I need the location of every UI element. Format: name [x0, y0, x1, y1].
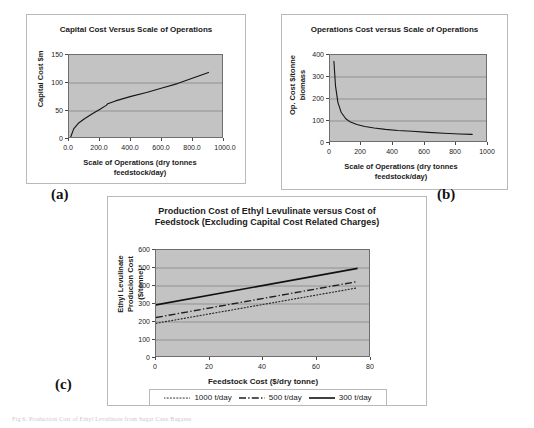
legend-label: 1000 t/day — [194, 393, 231, 402]
y-tick-label: 150 — [47, 51, 63, 58]
chart-title-operations-cost: Operations Cost versus Scale of Operatio… — [282, 25, 507, 35]
plot-area-operations-cost — [329, 54, 487, 142]
x-tick-label: 800 — [443, 148, 467, 155]
series-line-capital-cost — [71, 72, 209, 137]
x-tick-mark — [316, 357, 317, 360]
x-tick-label: 1000 — [475, 148, 499, 155]
x-tick-label: 0.0 — [53, 144, 83, 151]
y-tick-label: 400 — [132, 282, 150, 289]
legend-label: 300 t/day — [339, 393, 372, 402]
x-tick-mark — [392, 142, 393, 145]
x-tick-mark — [209, 357, 210, 360]
plot-area-production-cost — [155, 249, 370, 357]
x-tick-mark — [262, 357, 263, 360]
x-tick-label: 1000.0 — [208, 144, 242, 151]
legend-swatch-dashdot — [239, 395, 265, 401]
x-tick-mark — [130, 138, 131, 141]
y-tick-label: 300 — [308, 73, 324, 80]
x-tick-mark — [99, 138, 100, 141]
y-tick-label: 100 — [47, 79, 63, 86]
series-line-1000-tday — [156, 288, 358, 324]
y-tick-label: 600 — [132, 246, 150, 253]
panel-capital-cost: Capital Cost Versus Scale of Operations … — [26, 14, 246, 184]
figure-label-b: (b) — [437, 186, 455, 203]
x-tick-mark — [487, 142, 488, 145]
legend-item-500-tday[interactable]: 500 t/day — [239, 393, 302, 402]
x-tick-label: 80 — [358, 363, 382, 370]
chart-title-production-cost: Production Cost of Ethyl Levulinate vers… — [108, 206, 426, 229]
figure-label-a: (a) — [51, 186, 69, 203]
y-tick-label: 100 — [308, 117, 324, 124]
y-tick-label: 50 — [47, 107, 63, 114]
y-tick-label: 400 — [308, 51, 324, 58]
x-tick-label: 800.0 — [177, 144, 207, 151]
x-tick-label: 0 — [317, 148, 341, 155]
x-tick-label: 0 — [143, 363, 167, 370]
y-tick-label: 300 — [132, 300, 150, 307]
series-line-operations-cost — [334, 61, 472, 134]
x-tick-mark — [155, 357, 156, 360]
panel-operations-cost: Operations Cost versus Scale of Operatio… — [281, 14, 508, 190]
legend-production-cost: 1000 t/day 500 t/day 300 t/day — [149, 389, 387, 406]
x-tick-label: 400.0 — [115, 144, 145, 151]
x-tick-label: 600 — [412, 148, 436, 155]
x-tick-label: 40 — [250, 363, 274, 370]
x-tick-mark — [455, 142, 456, 145]
x-tick-label: 200.0 — [84, 144, 114, 151]
y-tick-label: 0 — [47, 135, 63, 142]
x-tick-mark — [424, 142, 425, 145]
legend-label: 500 t/day — [269, 393, 302, 402]
y-tick-label: 200 — [132, 318, 150, 325]
x-tick-mark — [161, 138, 162, 141]
x-axis-title-capital-cost: Scale of Operations (dry tonnes feedstoc… — [45, 158, 235, 178]
figure-label-c: (c) — [55, 376, 72, 393]
x-tick-mark — [360, 142, 361, 145]
x-tick-label: 600.0 — [146, 144, 176, 151]
x-axis-title-production-cost: Feedstock Cost ($/dry tonne) — [148, 377, 378, 388]
x-tick-label: 60 — [304, 363, 328, 370]
x-tick-label: 20 — [197, 363, 221, 370]
chart-title-capital-cost: Capital Cost Versus Scale of Operations — [27, 25, 245, 35]
capital-cost-plot-svg — [69, 55, 223, 138]
y-tick-label: 500 — [132, 264, 150, 271]
x-tick-label: 200 — [348, 148, 372, 155]
legend-swatch-solid — [309, 395, 335, 401]
x-tick-mark — [68, 138, 69, 141]
x-tick-label: 400 — [380, 148, 404, 155]
legend-item-1000-tday[interactable]: 1000 t/day — [164, 393, 231, 402]
production-cost-plot-svg — [156, 250, 370, 357]
legend-item-300-tday[interactable]: 300 t/day — [309, 393, 372, 402]
panel-production-cost: Production Cost of Ethyl Levulinate vers… — [107, 196, 427, 406]
y-tick-label: 100 — [132, 336, 150, 343]
y-tick-label: 0 — [132, 354, 150, 361]
x-tick-mark — [329, 142, 330, 145]
x-tick-mark — [223, 138, 224, 141]
x-tick-mark — [192, 138, 193, 141]
figure-caption: Fig 6. Production Cost of Ethyl Levulina… — [12, 416, 191, 422]
plot-area-capital-cost — [68, 54, 223, 138]
x-axis-title-operations-cost: Scale of Operations (dry tonnes feedstoc… — [306, 162, 496, 182]
x-tick-mark — [370, 357, 371, 360]
y-tick-label: 200 — [308, 95, 324, 102]
operations-cost-plot-svg — [330, 55, 487, 142]
legend-swatch-dotted — [164, 395, 190, 401]
y-tick-label: 0 — [308, 139, 324, 146]
